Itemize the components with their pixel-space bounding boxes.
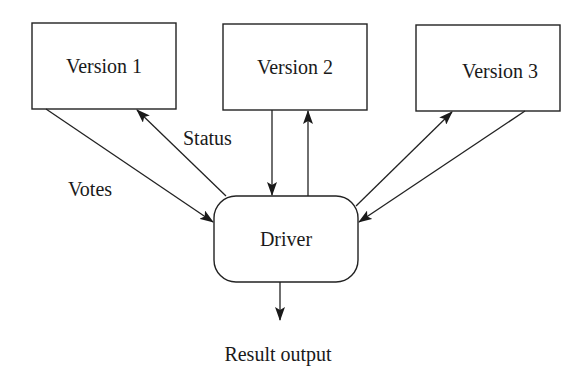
node-version-2: Version 2 <box>223 24 367 110</box>
driver-label: Driver <box>260 228 313 250</box>
voting-driver-diagram: Version 1 Version 2 Version 3 Driver Vot… <box>0 0 583 383</box>
node-version-1: Version 1 <box>32 23 176 109</box>
status-label: Status <box>183 127 232 149</box>
arrow-version3-to-driver <box>359 111 525 222</box>
node-driver: Driver <box>214 196 358 282</box>
result-output-label: Result output <box>224 343 332 366</box>
version-1-label: Version 1 <box>66 55 142 77</box>
arrow-version1-to-driver-votes <box>46 109 213 222</box>
version-2-label: Version 2 <box>257 56 333 78</box>
version-3-label: Version 3 <box>462 60 538 82</box>
node-version-3: Version 3 <box>416 25 560 111</box>
arrow-driver-to-version1-status <box>137 110 226 196</box>
votes-label: Votes <box>68 178 112 200</box>
